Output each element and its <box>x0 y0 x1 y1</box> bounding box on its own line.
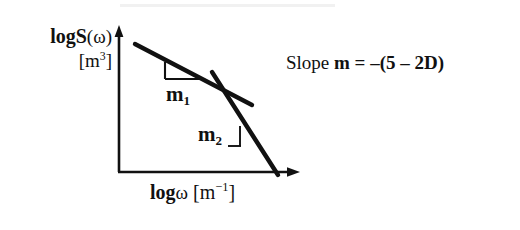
curve-label-m2: m2 <box>198 124 222 145</box>
curve-label-m1: m1 <box>166 84 190 105</box>
slope-formula-symbol: m <box>334 52 350 73</box>
y-axis-s-symbol: S <box>76 25 87 47</box>
curve-m1 <box>135 44 252 105</box>
y-axis-log-text: log <box>50 25 76 47</box>
y-axis-units-exponent: 3 <box>100 50 106 63</box>
y-axis-omega-argument: (ω) <box>87 26 112 47</box>
y-axis-label: logS(ω) [m3] <box>20 26 112 70</box>
x-axis-label: logω [m−1] <box>150 182 235 202</box>
x-axis-omega-variable: ω <box>176 182 189 203</box>
slope-formula-equals: = <box>355 52 366 73</box>
slope-figure: logS(ω) [m3] logω [m−1] m1 m2 Slope m = … <box>0 0 520 230</box>
slope-marker-m2 <box>228 126 241 146</box>
y-axis <box>115 25 124 172</box>
curve-label-m2-subscript: 2 <box>216 133 223 148</box>
x-axis-units-exponent: −1 <box>215 180 228 194</box>
slope-formula-prefix: Slope <box>286 52 329 73</box>
y-axis-label-main: logS(ω) <box>50 25 112 47</box>
curve-label-m1-subscript: 1 <box>184 93 191 108</box>
slope-formula: Slope m = –(5 – 2D) <box>286 53 444 72</box>
y-axis-units: [m3] <box>20 51 112 70</box>
x-axis-units: [m−1] <box>193 181 235 203</box>
x-axis-log-text: log <box>150 181 176 203</box>
slope-formula-expression: –(5 – 2D) <box>370 52 444 73</box>
